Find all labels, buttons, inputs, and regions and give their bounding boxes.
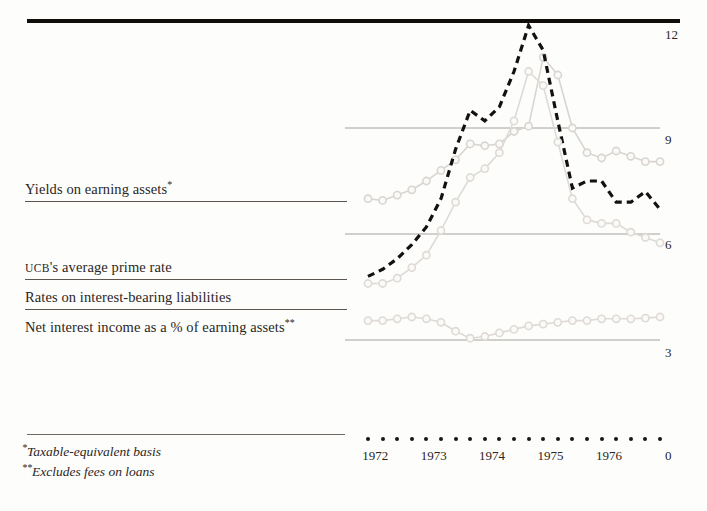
data-point (452, 328, 459, 335)
data-point (627, 229, 634, 236)
data-point (452, 199, 459, 206)
data-point (525, 68, 532, 75)
x-tick-label-1974: 1974 (469, 448, 515, 464)
data-point (364, 280, 371, 287)
data-point (394, 192, 401, 199)
data-point (525, 123, 532, 130)
data-point (613, 315, 620, 322)
data-point (379, 280, 386, 287)
legend-label-ucb: UCB's average prime rate (25, 258, 347, 277)
data-point (540, 321, 547, 328)
legend-label-yields: Yields on earning assets* (25, 180, 347, 198)
data-point (554, 139, 561, 146)
legend-item-ucb-average-prime-rate[interactable]: UCB's average prime rate (25, 258, 347, 277)
data-point (467, 335, 474, 342)
figure-page: Yields on earning assets* UCB's average … (0, 0, 707, 511)
footnote-2-text: Excludes fees on loans (32, 464, 155, 479)
x-tick-dot (643, 437, 647, 441)
series-line (368, 57, 660, 200)
data-point (379, 197, 386, 204)
data-point (364, 195, 371, 202)
footnote-rule (27, 434, 345, 435)
data-point (642, 158, 649, 165)
footnote-1-text: Taxable-equivalent basis (27, 444, 161, 459)
y-tick-3: 3 (665, 345, 695, 361)
data-point (525, 322, 532, 329)
data-point (408, 264, 415, 271)
data-point (627, 315, 634, 322)
series-3 (364, 313, 663, 341)
legend-item-net-interest-income[interactable]: Net interest income as a % of earning as… (25, 318, 347, 336)
legend-mark-yields: * (167, 179, 172, 190)
legend-label-net-interest-income: Net interest income as a % of earning as… (25, 318, 347, 336)
data-point (437, 227, 444, 234)
series-line (368, 317, 660, 338)
x-tick-dot (497, 437, 501, 441)
y-tick-0: 0 (665, 448, 695, 464)
legend-item-rates-on-interest-bearing-liabilities[interactable]: Rates on interest-bearing liabilities (25, 288, 347, 306)
data-point (642, 234, 649, 241)
gridlines (345, 128, 660, 340)
data-point (467, 140, 474, 147)
x-tick-dot (366, 437, 370, 441)
x-tick-dot (410, 437, 414, 441)
data-point (408, 313, 415, 320)
y-tick-12: 12 (665, 27, 695, 43)
series-0 (364, 54, 663, 204)
data-point (540, 82, 547, 89)
data-point (496, 329, 503, 336)
top-rule (27, 19, 680, 23)
data-point (554, 71, 561, 78)
x-tick-label-1972: 1972 (352, 448, 398, 464)
data-point (569, 317, 576, 324)
x-tick-dot (600, 437, 604, 441)
footnotes-block: *Taxable-equivalent basis **Excludes fee… (22, 442, 352, 482)
legend-rule-ucb (25, 279, 347, 280)
legend-label-ucb-rest: 's average prime rate (50, 259, 172, 275)
x-tick-dot (614, 437, 618, 441)
data-point (613, 147, 620, 154)
data-point (656, 313, 663, 320)
legend-item-yields-on-earning-assets[interactable]: Yields on earning assets* (25, 180, 347, 198)
data-point (481, 142, 488, 149)
data-point (569, 124, 576, 131)
series-1 (368, 26, 660, 277)
data-point (423, 315, 430, 322)
data-point (598, 154, 605, 161)
footnote-2-mark: ** (22, 462, 32, 473)
data-point (496, 149, 503, 156)
legend-rule-rates (25, 309, 347, 310)
x-tick-dot (570, 437, 574, 441)
x-tick-dot (527, 437, 531, 441)
data-point (394, 275, 401, 282)
data-point (496, 140, 503, 147)
legend-rule-yields (25, 201, 347, 202)
series-2 (364, 68, 663, 287)
data-point (642, 315, 649, 322)
x-tick-dot (454, 437, 458, 441)
data-point (583, 149, 590, 156)
data-point (437, 319, 444, 326)
data-point (540, 54, 547, 61)
ucb-smallcaps: UCB (25, 262, 50, 274)
x-tick-dot (658, 437, 662, 441)
x-tick-dot (439, 437, 443, 441)
y-tick-6: 6 (665, 237, 695, 253)
data-point (379, 317, 386, 324)
data-point (554, 319, 561, 326)
data-point (394, 315, 401, 322)
data-point (452, 156, 459, 163)
data-point (627, 153, 634, 160)
data-point (598, 220, 605, 227)
x-tick-dot (468, 437, 472, 441)
data-point (598, 315, 605, 322)
data-point (408, 186, 415, 193)
x-tick-dot (483, 437, 487, 441)
x-tick-dot (424, 437, 428, 441)
series-layer (364, 26, 663, 342)
data-point (467, 174, 474, 181)
legend-label-rates: Rates on interest-bearing liabilities (25, 288, 347, 306)
x-tick-dot (556, 437, 560, 441)
data-point (481, 333, 488, 340)
legend-mark-net-interest: ** (285, 317, 295, 328)
